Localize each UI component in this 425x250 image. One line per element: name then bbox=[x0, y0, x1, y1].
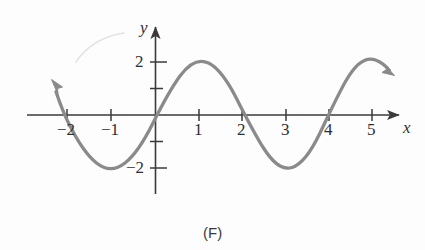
sine-curve bbox=[56, 59, 390, 169]
x-tick-label--2: −2 bbox=[57, 120, 75, 140]
scan-artifact bbox=[76, 33, 124, 62]
y-axis-label: y bbox=[140, 18, 148, 38]
figure-container: −2 −1 1 2 3 4 5 2 −2 y x (F) bbox=[0, 0, 425, 250]
x-tick-label-1: 1 bbox=[194, 120, 202, 140]
x-tick-label-4: 4 bbox=[324, 120, 332, 140]
x-tick-label-5: 5 bbox=[367, 120, 375, 140]
curve-left-arrowhead bbox=[52, 80, 63, 95]
x-axis-label: x bbox=[403, 118, 411, 138]
x-tick-label-3: 3 bbox=[281, 120, 289, 140]
y-tick-label--2: −2 bbox=[126, 158, 144, 178]
x-tick-label--1: −1 bbox=[101, 120, 119, 140]
figure-caption: (F) bbox=[203, 224, 222, 241]
x-tick-label-2: 2 bbox=[237, 120, 245, 140]
y-tick-label-2: 2 bbox=[135, 52, 143, 72]
